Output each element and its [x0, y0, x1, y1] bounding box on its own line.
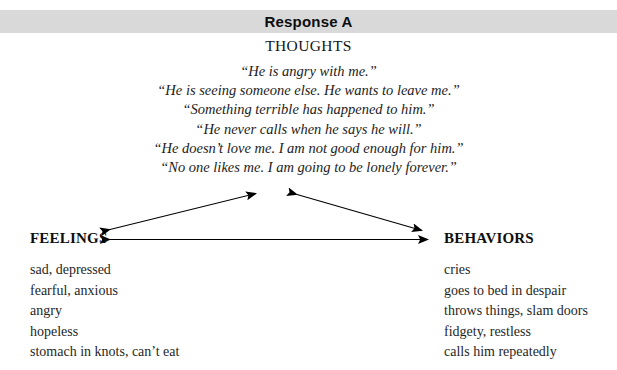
- list-item: fidgety, restless: [444, 322, 588, 343]
- list-item: hopeless: [30, 322, 179, 343]
- thought-line: “He never calls when he says he will.”: [0, 120, 617, 139]
- thought-line: “He is angry with me.”: [0, 62, 617, 81]
- arrow-thoughts-behaviors: [297, 195, 422, 231]
- list-item: angry: [30, 301, 179, 322]
- behaviors-list: cries goes to bed in despair throws thin…: [444, 260, 588, 363]
- list-item: sad, depressed: [30, 260, 179, 281]
- thought-line: “Something terrible has happened to him.…: [0, 100, 617, 119]
- feelings-list: sad, depressed fearful, anxious angry ho…: [30, 260, 179, 363]
- arrow-feelings-thoughts: [110, 194, 256, 230]
- list-item: cries: [444, 260, 588, 281]
- feelings-heading: FEELINGS: [30, 230, 107, 247]
- list-item: calls him repeatedly: [444, 342, 588, 363]
- thoughts-heading: THOUGHTS: [0, 37, 617, 55]
- page-title: Response A: [0, 10, 617, 33]
- thoughts-list: “He is angry with me.” “He is seeing som…: [0, 62, 617, 177]
- list-item: goes to bed in despair: [444, 281, 588, 302]
- list-item: stomach in knots, can’t eat: [30, 342, 179, 363]
- thought-line: “No one likes me. I am going to be lonel…: [0, 158, 617, 177]
- list-item: fearful, anxious: [30, 281, 179, 302]
- list-item: throws things, slam doors: [444, 301, 588, 322]
- thought-line: “He doesn’t love me. I am not good enoug…: [0, 139, 617, 158]
- thought-line: “He is seeing someone else. He wants to …: [0, 81, 617, 100]
- behaviors-heading: BEHAVIORS: [444, 230, 534, 247]
